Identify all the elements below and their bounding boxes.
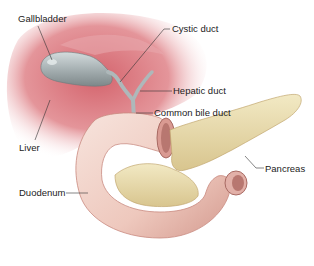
label-hepatic-duct: Hepatic duct — [173, 86, 226, 96]
leader-pancreas — [245, 156, 264, 168]
label-gallbladder: Gallbladder — [18, 14, 67, 24]
label-pancreas: Pancreas — [265, 164, 305, 174]
label-common-bile-duct: Common bile duct — [154, 108, 231, 118]
anatomy-diagram: Gallbladder Cystic duct Hepatic duct Com… — [0, 0, 314, 266]
label-cystic-duct: Cystic duct — [172, 24, 218, 34]
anatomy-illustration — [0, 0, 314, 266]
label-liver: Liver — [19, 143, 40, 153]
label-duodenum: Duodenum — [19, 188, 65, 198]
